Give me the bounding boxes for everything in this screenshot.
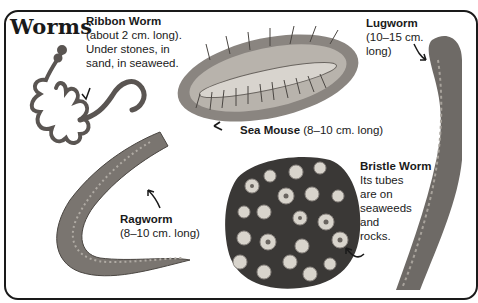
- species-detail: (10–15 cm.: [366, 30, 424, 44]
- species-detail: long): [366, 44, 424, 58]
- species-name: Ribbon Worm: [86, 14, 182, 28]
- species-detail: (about 2 cm. long).: [86, 28, 182, 42]
- species-name: Sea Mouse: [240, 124, 300, 136]
- species-detail: and: [360, 215, 431, 229]
- label-ribbon-worm: Ribbon Worm (about 2 cm. long). Under st…: [86, 14, 182, 70]
- species-detail: are on: [360, 187, 431, 201]
- species-name: Ragworm: [120, 212, 200, 226]
- label-bristle-worm: Bristle Worm Its tubes are on seaweeds a…: [360, 159, 431, 243]
- label-ragworm: Ragworm (8–10 cm. long): [120, 212, 200, 240]
- ragworm-arrow: [148, 190, 160, 208]
- label-lugworm: Lugworm (10–15 cm. long): [366, 16, 424, 58]
- species-detail: (8–10 cm. long): [303, 124, 383, 136]
- ragworm-illustration: [57, 132, 190, 276]
- species-detail: sand, in seaweed.: [86, 56, 182, 70]
- species-detail: Under stones, in: [86, 42, 182, 56]
- species-name: Bristle Worm: [360, 159, 431, 173]
- species-detail: rocks.: [360, 229, 431, 243]
- species-name: Lugworm: [366, 16, 424, 30]
- species-detail: seaweeds: [360, 201, 431, 215]
- species-detail: (8–10 cm. long): [120, 226, 200, 240]
- species-detail: Its tubes: [360, 173, 431, 187]
- bristle-worm-illustration: [225, 157, 360, 289]
- label-sea-mouse: Sea Mouse (8–10 cm. long): [240, 123, 383, 137]
- ribbon-worm-arrow: [82, 88, 90, 99]
- sea-mouse-arrow: [214, 122, 222, 130]
- sea-mouse-illustration: [170, 20, 367, 137]
